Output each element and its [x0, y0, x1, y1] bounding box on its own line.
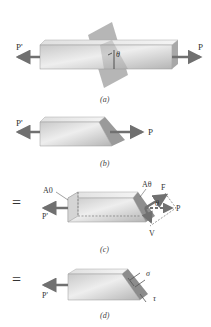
- shear-force-label: V: [149, 229, 155, 238]
- caption-b: (b): [100, 159, 110, 168]
- angle-label: θ: [155, 199, 159, 208]
- angle-label: θ: [116, 50, 120, 59]
- normal-stress-label: σ: [146, 269, 151, 278]
- stress-diagram: θ P' P (a) P' P (b) = P' A0 Aθ: [0, 0, 211, 327]
- caption-a: (a): [100, 95, 110, 104]
- panel-a: θ P' P (a): [16, 22, 203, 104]
- force-label-right: P: [198, 42, 203, 52]
- caption-d: (d): [100, 311, 110, 320]
- force-label-left: P': [42, 212, 48, 221]
- normal-force-label: F: [161, 183, 166, 192]
- shear-stress-label: τ: [153, 294, 157, 303]
- equals-sign: =: [12, 271, 21, 288]
- panel-b: P' P (b): [16, 117, 153, 168]
- force-label-right: P: [148, 127, 153, 137]
- bar-front-face: [68, 198, 146, 222]
- panel-d: = P' σ τ (d): [12, 269, 157, 320]
- force-label-left: P': [16, 42, 23, 52]
- bar-top-face: [68, 192, 138, 198]
- force-label-left: P': [42, 291, 48, 300]
- caption-c: (c): [100, 245, 109, 254]
- bar-top-face: [68, 269, 128, 274]
- area-label-atheta: Aθ: [142, 180, 152, 189]
- resultant-label: P: [176, 204, 181, 213]
- area-label-a0: A0: [43, 186, 53, 195]
- bar-top-face: [40, 117, 105, 122]
- force-label-left: P': [16, 118, 23, 128]
- panel-c: = P' A0 Aθ F P V θ (c): [12, 180, 181, 254]
- equals-sign: =: [12, 194, 21, 211]
- bar-end-face: [172, 40, 178, 69]
